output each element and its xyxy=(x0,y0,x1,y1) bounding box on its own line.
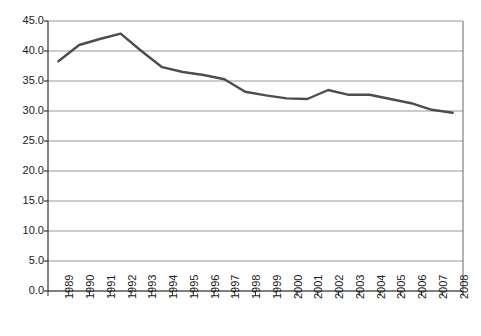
x-axis-tick-label: 1997 xyxy=(229,275,241,299)
x-axis-tick-label: 1992 xyxy=(126,275,138,299)
x-axis-tick-label: 2006 xyxy=(416,275,428,299)
x-axis-tick-label: 2007 xyxy=(437,275,449,299)
x-axis-tick-label: 1996 xyxy=(209,275,221,299)
x-axis-tick-label: 1998 xyxy=(250,275,262,299)
x-axis-tick-label: 2005 xyxy=(395,275,407,299)
x-axis-tick-label: 2000 xyxy=(292,275,304,299)
x-axis-tick-label: 2003 xyxy=(354,275,366,299)
x-axis-tick-label: 1990 xyxy=(84,275,96,299)
x-axis-tick-label: 2001 xyxy=(312,275,324,299)
x-axis-tick-label: 2002 xyxy=(333,275,345,299)
x-axis-tick-label: 1991 xyxy=(105,275,117,299)
line-chart: 0.05.010.015.020.025.030.035.040.045.0 1… xyxy=(0,0,481,336)
x-axis-tick-label: 1989 xyxy=(63,275,75,299)
x-axis-tick-label: 1993 xyxy=(146,275,158,299)
x-axis-tick-label: 1995 xyxy=(188,275,200,299)
x-axis-tick-label: 2004 xyxy=(375,275,387,299)
x-axis-tick-label: 1994 xyxy=(167,275,179,299)
x-axis-tick-label: 1999 xyxy=(271,275,283,299)
x-axis-labels: 1989199019911992199319941995199619971998… xyxy=(0,0,481,336)
x-axis-tick-label: 2008 xyxy=(458,275,470,299)
